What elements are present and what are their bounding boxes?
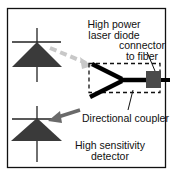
coupler-label: Directional coupler: [82, 113, 169, 124]
fiber-connector-icon: [146, 71, 161, 88]
laser-diode-icon: [12, 28, 62, 82]
laser-label: High power laser diode: [73, 19, 155, 41]
detector-label-line2: detector: [60, 151, 160, 162]
detector-beam-arrow: [48, 110, 80, 123]
connector-label: connector to fiber: [112, 40, 172, 62]
detector-icon: [11, 106, 62, 162]
detector-label: High sensitivity detector: [60, 140, 160, 162]
connector-label-line2: to fiber: [112, 51, 172, 62]
